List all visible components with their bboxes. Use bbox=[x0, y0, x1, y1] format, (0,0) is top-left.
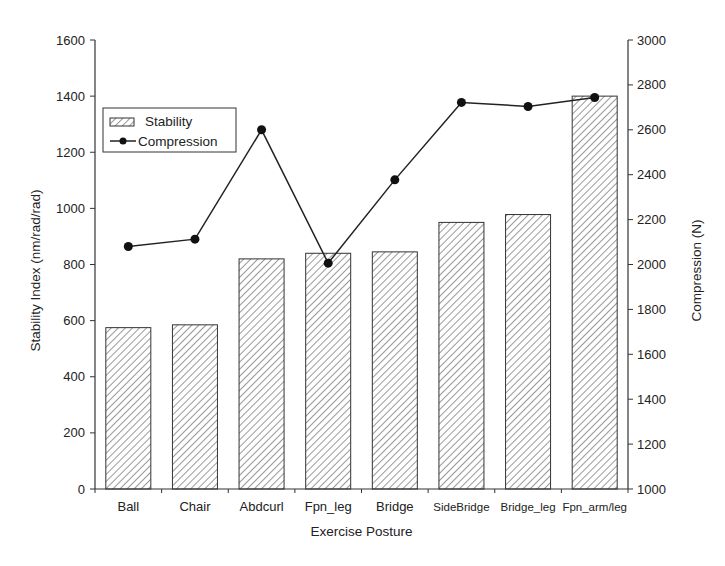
legend-marker-compression bbox=[120, 138, 127, 145]
compression-point bbox=[257, 125, 266, 134]
y-tick-label: 0 bbox=[78, 482, 85, 497]
x-tick-label: Ball bbox=[117, 499, 139, 514]
y-tick-label: 1200 bbox=[56, 145, 85, 160]
y2-tick-label: 2600 bbox=[637, 122, 666, 137]
y-tick-label: 400 bbox=[63, 369, 85, 384]
legend-swatch-stability bbox=[110, 118, 134, 126]
y-tick-label: 600 bbox=[63, 313, 85, 328]
compression-point bbox=[390, 175, 399, 184]
chart: 0200400600800100012001400160010001200140… bbox=[0, 0, 725, 566]
y2-tick-label: 1600 bbox=[637, 347, 666, 362]
y2-tick-label: 1400 bbox=[637, 392, 666, 407]
y-tick-label: 1600 bbox=[56, 33, 85, 48]
y2-tick-label: 2000 bbox=[637, 257, 666, 272]
x-tick-label: Bridge_leg bbox=[501, 501, 556, 513]
y2-tick-label: 1200 bbox=[637, 437, 666, 452]
x-tick-label: SideBridge bbox=[433, 501, 489, 513]
bar-bridge bbox=[372, 252, 417, 489]
stability-bars bbox=[106, 96, 617, 489]
compression-point bbox=[457, 98, 466, 107]
x-tick-label: Fpn_arm/leg bbox=[562, 501, 627, 513]
bar-chair bbox=[172, 325, 217, 489]
legend-label-stability: Stability bbox=[145, 114, 193, 129]
y2-tick-label: 2800 bbox=[637, 77, 666, 92]
y2-tick-label: 1800 bbox=[637, 302, 666, 317]
y2-tick-label: 3000 bbox=[637, 33, 666, 48]
y-tick-label: 1400 bbox=[56, 89, 85, 104]
y2-axis-title: Compression (N) bbox=[689, 219, 704, 321]
x-axis-title: Exercise Posture bbox=[310, 524, 412, 539]
x-tick-label: Abdcurl bbox=[240, 499, 284, 514]
y-axis-title: Stability Index (nm/rad/rad) bbox=[28, 189, 43, 351]
compression-point bbox=[524, 102, 533, 111]
compression-point bbox=[124, 242, 133, 251]
compression-point bbox=[190, 235, 199, 244]
bar-abdcurl bbox=[239, 259, 284, 489]
bar-sidebridge bbox=[439, 222, 484, 489]
y-tick-label: 800 bbox=[63, 257, 85, 272]
y-tick-label: 1000 bbox=[56, 201, 85, 216]
compression-point bbox=[590, 93, 599, 102]
y2-tick-label: 2400 bbox=[637, 167, 666, 182]
x-tick-label: Chair bbox=[179, 499, 211, 514]
bar-bridge-leg bbox=[506, 215, 551, 489]
y-tick-label: 200 bbox=[63, 425, 85, 440]
bar-ball bbox=[106, 328, 151, 489]
legend-label-compression: Compression bbox=[138, 134, 218, 149]
y2-tick-label: 1000 bbox=[637, 482, 666, 497]
x-tick-label: Fpn_leg bbox=[305, 499, 352, 514]
bar-fpn-arm-leg bbox=[572, 96, 617, 489]
bar-fpn-leg bbox=[306, 253, 351, 489]
legend: StabilityCompression bbox=[103, 108, 236, 152]
x-tick-label: Bridge bbox=[376, 499, 414, 514]
y2-tick-label: 2200 bbox=[637, 212, 666, 227]
compression-point bbox=[324, 259, 333, 268]
